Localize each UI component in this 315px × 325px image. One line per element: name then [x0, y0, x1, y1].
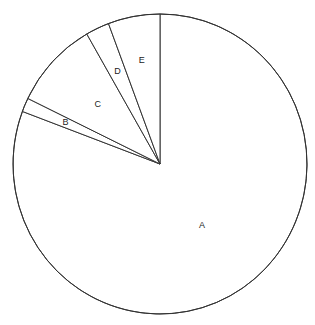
slice-label-d: D	[114, 66, 121, 76]
slice-label-c: C	[94, 99, 101, 109]
slice-label-e: E	[139, 55, 145, 65]
slice-label-b: B	[62, 117, 68, 127]
pie-slices	[13, 14, 307, 314]
pie-chart: ABCDE	[0, 0, 315, 325]
slice-label-a: A	[199, 220, 205, 230]
